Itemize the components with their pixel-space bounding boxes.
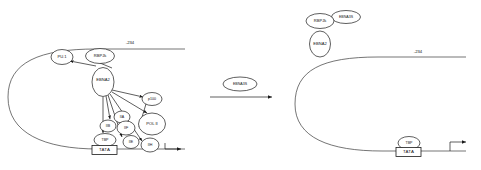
right-dna-loop bbox=[295, 57, 466, 151]
left-node-iif[interactable]: IIF bbox=[117, 121, 135, 135]
right-node-tbp-label: TBP bbox=[406, 141, 414, 145]
left-node-polii-label: POL II bbox=[146, 121, 157, 126]
left-node-ebna2-label: EBNA2 bbox=[96, 77, 110, 82]
figure-canvas: POL II IIA IIF IIB IIE IIH TBP TATA bbox=[0, 0, 481, 170]
diagram-svg: POL II IIA IIF IIB IIE IIH TBP TATA bbox=[0, 0, 481, 170]
left-node-iie[interactable]: IIE bbox=[123, 136, 139, 149]
left-tata-box[interactable]: TATA bbox=[92, 146, 117, 155]
left-node-p100[interactable]: p100 bbox=[142, 93, 162, 106]
left-node-iie-label: IIE bbox=[129, 140, 134, 144]
left-node-polii[interactable]: POL II bbox=[139, 113, 166, 135]
left-node-iih-label: IIH bbox=[148, 143, 153, 147]
left-transcription-start-arrow bbox=[165, 143, 181, 149]
left-node-rbpjk[interactable]: RBPJk bbox=[86, 49, 115, 64]
transition-arrow-label: EBNA3S bbox=[233, 82, 248, 86]
left-node-pu1-label: PU.1 bbox=[57, 54, 67, 59]
right-node-ebna3s[interactable]: EBNA3S bbox=[332, 11, 361, 24]
right-node-ebna3s-label: EBNA3S bbox=[339, 15, 354, 19]
left-node-iia-label: IIA bbox=[120, 115, 125, 119]
left-node-rbpjk-label: RBPJk bbox=[94, 53, 107, 58]
right-position-label: -234 bbox=[414, 49, 423, 54]
right-tata-label: TATA bbox=[403, 149, 414, 154]
left-node-p100-label: p100 bbox=[148, 97, 156, 101]
left-position-label: -234 bbox=[126, 40, 135, 45]
transition-arrow-node[interactable]: EBNA3S bbox=[223, 77, 257, 91]
right-tata-box[interactable]: TATA bbox=[396, 148, 421, 157]
left-node-tbp[interactable]: TBP bbox=[94, 134, 116, 147]
left-node-iib[interactable]: IIB bbox=[100, 120, 116, 132]
right-node-ebna2-label: EBNA2 bbox=[313, 41, 327, 46]
right-node-rbpjk[interactable]: RBPJk bbox=[306, 14, 334, 29]
left-node-iib-label: IIB bbox=[106, 124, 111, 128]
right-transcription-start-arrow bbox=[450, 142, 466, 151]
left-tata-label: TATA bbox=[99, 147, 110, 152]
left-node-iih[interactable]: IIH bbox=[141, 138, 159, 152]
right-node-ebna2[interactable]: EBNA2 bbox=[310, 31, 331, 57]
left-node-pu1[interactable]: PU.1 bbox=[51, 50, 73, 65]
right-node-rbpjk-label: RBPJk bbox=[314, 18, 327, 23]
left-node-tbp-label: TBP bbox=[102, 138, 110, 142]
left-node-ebna2[interactable]: EBNA2 bbox=[92, 68, 114, 97]
